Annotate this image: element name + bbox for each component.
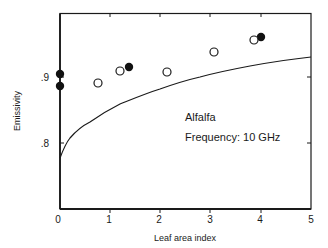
- x-tick-4: 4: [257, 214, 263, 225]
- annotation-frequency: Frequency: 10 GHz: [185, 131, 280, 143]
- open-point: [210, 48, 218, 56]
- filled-point: [56, 70, 64, 78]
- x-tick-2: 2: [156, 214, 162, 225]
- x-tick-0: 0: [55, 214, 61, 225]
- y-tick-0.9: .9: [41, 72, 50, 83]
- open-point: [250, 36, 258, 44]
- x-tick-3: 3: [207, 214, 213, 225]
- x-tick-labels: 0 1 2 3 4 5: [55, 214, 314, 225]
- y-tick-0.8: .8: [41, 138, 50, 149]
- open-point: [163, 68, 171, 76]
- chart-svg: 0 1 2 3 4 5 .8 .9 Leaf area index Emissi…: [0, 0, 328, 248]
- filled-point: [125, 63, 133, 71]
- x-tick-1: 1: [106, 214, 112, 225]
- y-tick-labels: .8 .9: [41, 72, 50, 149]
- open-point: [94, 79, 102, 87]
- filled-point: [56, 82, 64, 90]
- open-points: [94, 36, 258, 87]
- x-axis-label: Leaf area index: [154, 233, 217, 243]
- filled-points: [56, 33, 265, 90]
- open-point: [116, 67, 124, 75]
- y-axis-label: Emissivity: [12, 91, 22, 131]
- x-tick-5: 5: [308, 214, 314, 225]
- annotation-crop: Alfalfa: [185, 111, 216, 123]
